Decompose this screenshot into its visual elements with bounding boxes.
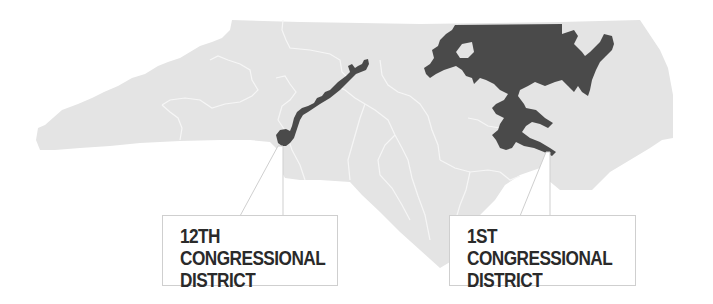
callout-12th-district: 12TH CONGRESSIONAL DISTRICT <box>162 215 338 286</box>
callout-1-line-3: DISTRICT <box>467 269 611 291</box>
callout-12-line-1: 12TH <box>180 225 315 247</box>
callout-12-line-3: DISTRICT <box>180 269 315 291</box>
callout-1-line-1: 1ST <box>467 225 611 247</box>
callout-12-pointer <box>240 146 283 216</box>
callout-1-line-2: CONGRESSIONAL <box>467 247 611 269</box>
callout-1st-district: 1ST CONGRESSIONAL DISTRICT <box>449 215 636 286</box>
callout-12-line-2: CONGRESSIONAL <box>180 247 315 269</box>
